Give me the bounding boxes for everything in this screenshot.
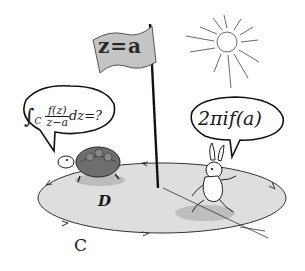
sun-icon bbox=[186, 15, 259, 88]
fraction-denominator: z−a bbox=[45, 117, 69, 128]
integral-symbol: ∫ bbox=[24, 104, 34, 128]
flag-label: z=a bbox=[98, 34, 142, 58]
contour-label: C bbox=[74, 235, 87, 255]
drawing bbox=[0, 0, 305, 271]
rabbit-speech-text: 2πif(a) bbox=[198, 107, 262, 129]
illustration-canvas: z=a ∫C f(z) z−a dz=? 2πif(a) D C bbox=[0, 0, 305, 271]
integral-tail: dz=? bbox=[69, 108, 102, 123]
region-label: D bbox=[98, 192, 111, 210]
region-d-ground bbox=[38, 163, 286, 233]
fraction: f(z) z−a bbox=[45, 105, 69, 128]
turtle-speech-text: ∫C f(z) z−a dz=? bbox=[24, 104, 102, 128]
fraction-numerator: f(z) bbox=[45, 105, 69, 117]
contour-subscript: C bbox=[34, 116, 41, 126]
